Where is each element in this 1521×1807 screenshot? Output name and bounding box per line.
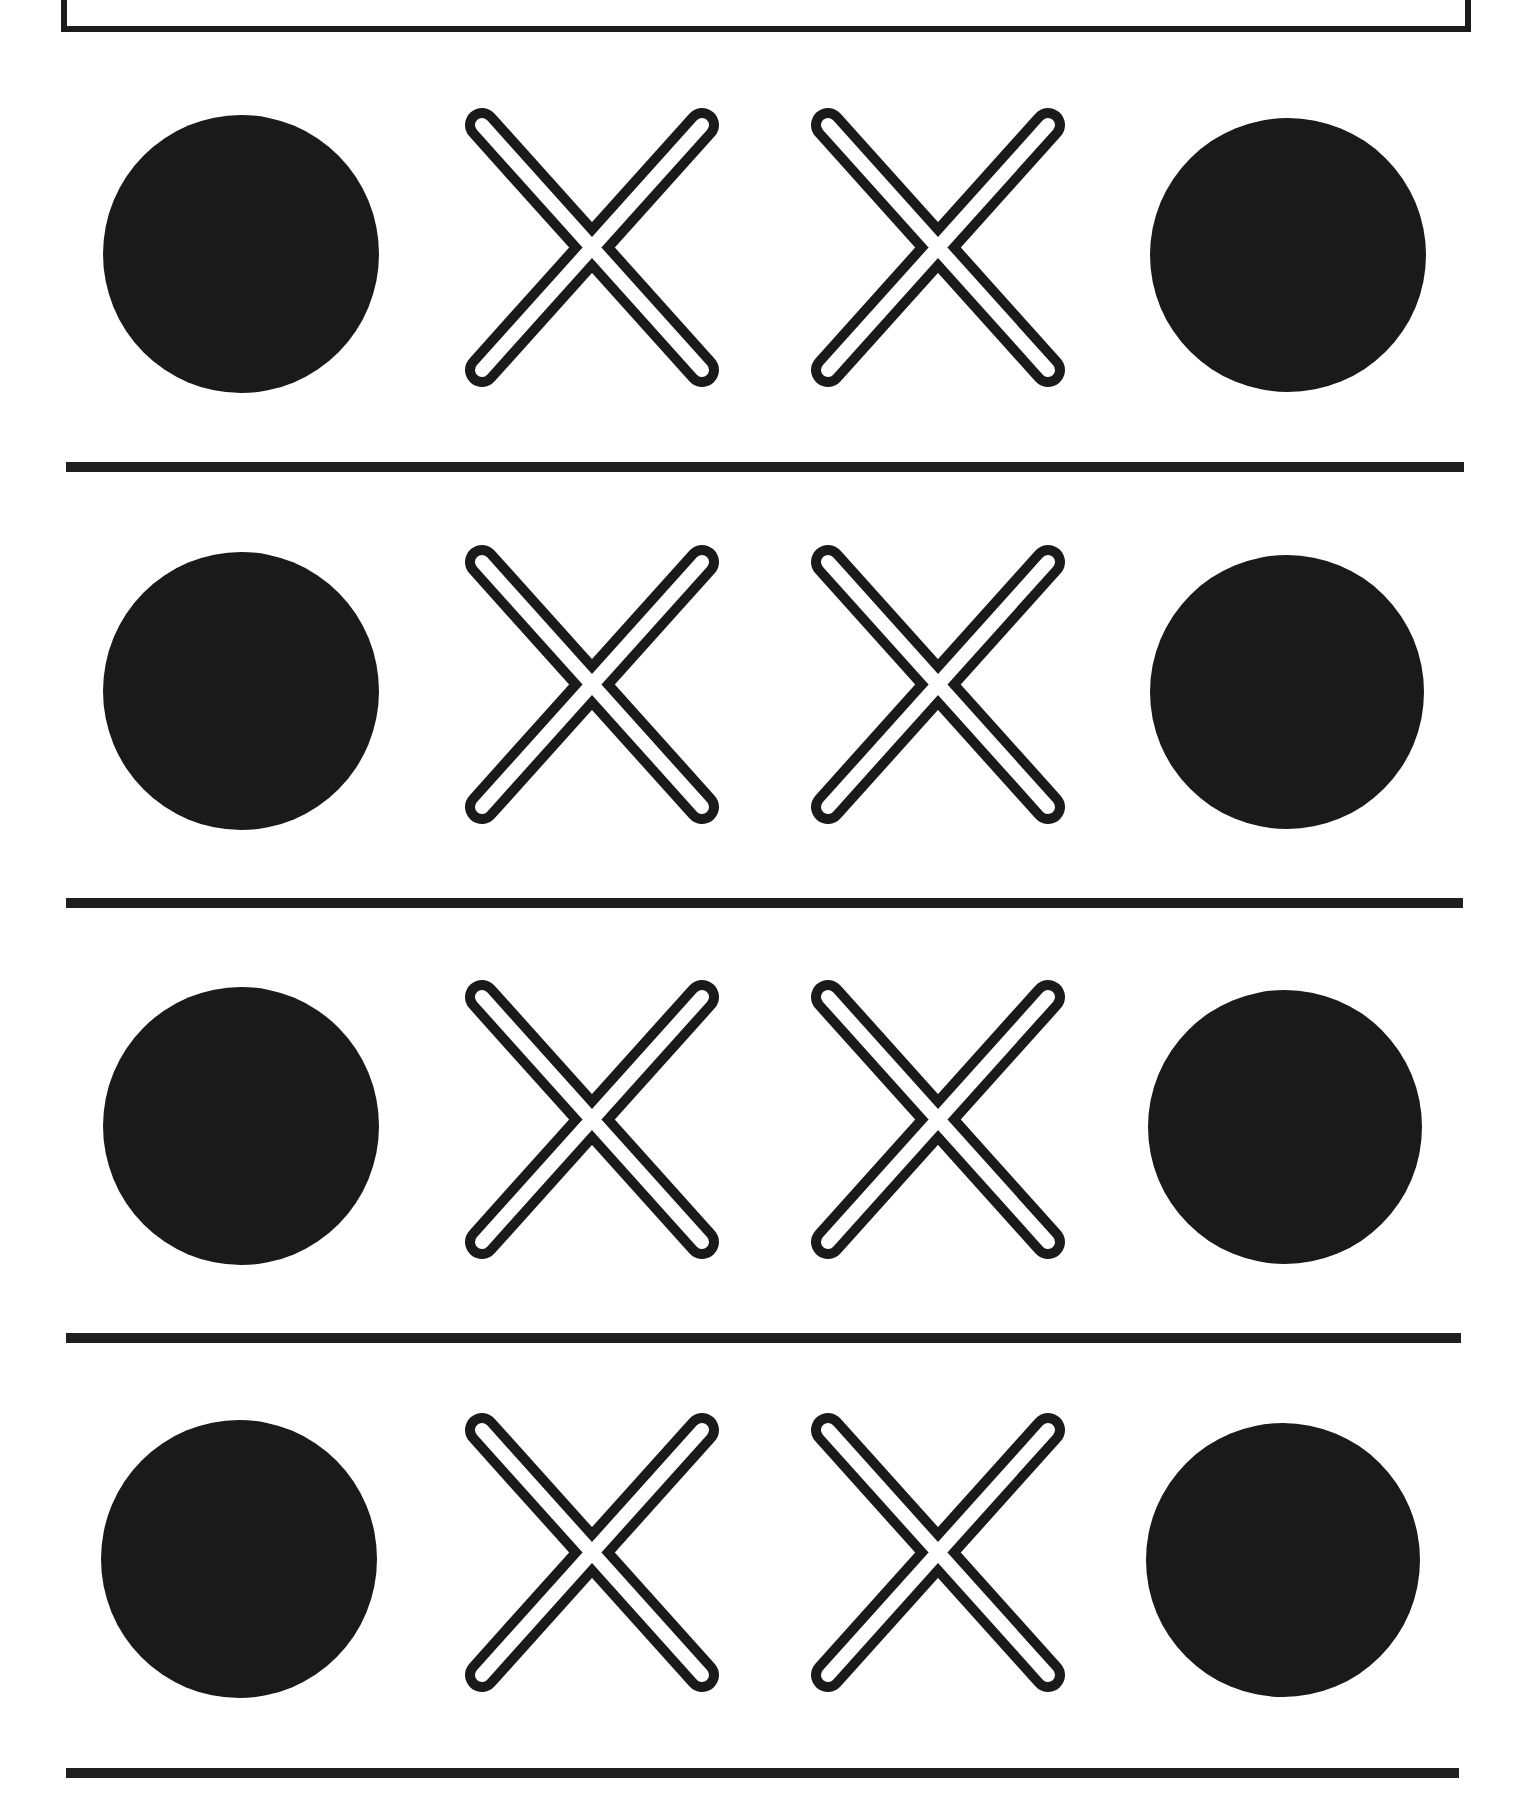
row-divider <box>66 1333 1461 1343</box>
outlined-x-icon <box>462 977 722 1262</box>
filled-circle-icon <box>103 552 379 830</box>
filled-circle-icon <box>103 987 379 1265</box>
row-divider <box>66 898 1463 908</box>
outlined-x-icon <box>808 105 1068 390</box>
pattern-row-1 <box>0 100 1521 400</box>
filled-circle-icon <box>103 115 379 393</box>
filled-circle-icon <box>1146 1423 1420 1697</box>
pattern-row-4 <box>0 1405 1521 1705</box>
filled-circle-icon <box>1148 990 1422 1264</box>
row-divider <box>66 462 1464 472</box>
pattern-row-3 <box>0 972 1521 1272</box>
row-divider <box>66 1768 1459 1778</box>
pattern-row-2 <box>0 537 1521 837</box>
outlined-x-icon <box>808 977 1068 1262</box>
filled-circle-icon <box>1150 118 1426 392</box>
outlined-x-icon <box>808 1410 1068 1695</box>
filled-circle-icon <box>101 1420 377 1698</box>
outlined-x-icon <box>462 1410 722 1695</box>
header-box-bottom-edge <box>61 0 1471 32</box>
outlined-x-icon <box>462 105 722 390</box>
outlined-x-icon <box>462 542 722 827</box>
outlined-x-icon <box>808 542 1068 827</box>
filled-circle-icon <box>1150 555 1424 829</box>
